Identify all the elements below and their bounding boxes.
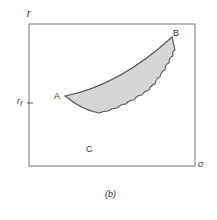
rf-label: rf — [17, 96, 23, 107]
point-c-label: C — [86, 144, 93, 154]
x-axis-label: σ — [198, 159, 204, 169]
point-b-label: B — [173, 28, 179, 38]
point-a-label: A — [54, 91, 60, 101]
diagram-canvas: r rf A B C σ (b) — [0, 0, 217, 220]
y-axis-label: r — [27, 8, 31, 19]
figure-caption: (b) — [105, 189, 116, 199]
shaded-region — [65, 37, 175, 113]
